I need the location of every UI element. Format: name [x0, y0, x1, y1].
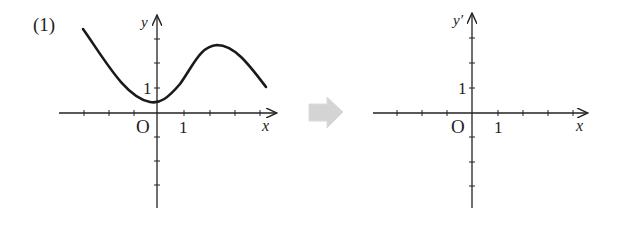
right-y-axis-label: y′: [451, 12, 464, 28]
left-x-axis-label: x: [261, 117, 269, 134]
left-x-unit-label: 1: [179, 118, 188, 137]
right-x-unit-label: 1: [494, 118, 503, 137]
left-origin-label: O: [136, 116, 150, 137]
right-origin-label: O: [451, 116, 465, 137]
problem-number-label: (1): [33, 14, 55, 36]
right-x-axis-label: x: [575, 117, 583, 134]
right-arrow-icon: [309, 97, 343, 128]
right-graph: y′ x O 1 1: [373, 12, 587, 208]
left-graph: y x O 1 1: [59, 14, 276, 208]
function-curve: [83, 29, 266, 102]
diagram-canvas: (1) y x O 1 1: [0, 0, 623, 227]
right-y-unit-label: 1: [458, 79, 467, 98]
left-y-unit-label: 1: [143, 79, 152, 98]
left-y-axis-label: y: [139, 14, 148, 30]
